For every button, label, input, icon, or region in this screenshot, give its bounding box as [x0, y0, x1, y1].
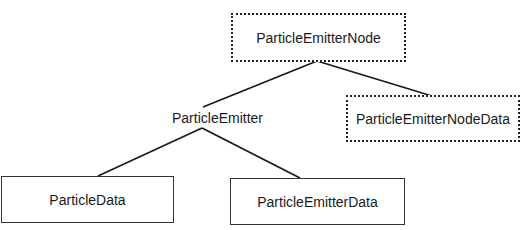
node-particle-emitter-node: ParticleEmitterNode [231, 13, 406, 62]
node-particle-emitter-node-data: ParticleEmitterNodeData [346, 95, 520, 142]
node-particle-data: ParticleData [1, 176, 174, 223]
node-label: ParticleData [49, 192, 125, 208]
node-particle-emitter-data: ParticleEmitterData [230, 178, 405, 225]
node-label: ParticleEmitterNode [256, 30, 381, 46]
node-particle-emitter: ParticleEmitter [150, 107, 285, 129]
edge-node-to-emitter [203, 61, 317, 107]
node-label: ParticleEmitter [172, 110, 263, 126]
node-label: ParticleEmitterNodeData [356, 111, 510, 127]
node-label: ParticleEmitterData [257, 194, 378, 210]
edge-emitter-to-particledata [98, 128, 202, 176]
edge-node-to-nodedata [317, 61, 432, 96]
edge-emitter-to-emitterdata [202, 128, 300, 178]
